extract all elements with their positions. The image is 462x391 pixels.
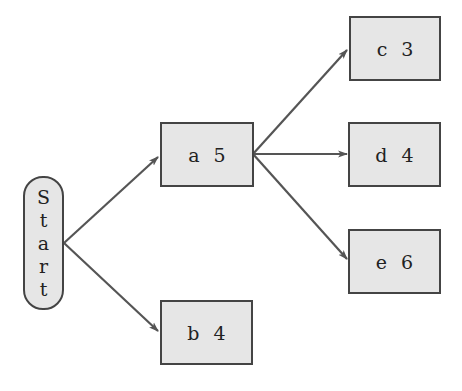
node-c: c 3 bbox=[349, 16, 441, 81]
start-node: S t a r t bbox=[23, 176, 64, 310]
node-value: 4 bbox=[214, 322, 226, 344]
edge-start-to-b bbox=[64, 243, 158, 331]
node-value: 4 bbox=[402, 144, 414, 166]
node-label: a bbox=[188, 144, 199, 166]
edge-a-to-e bbox=[253, 154, 347, 259]
start-letter: r bbox=[39, 255, 48, 278]
node-value: 3 bbox=[401, 38, 413, 60]
node-label: b bbox=[187, 322, 199, 344]
node-e: e 6 bbox=[348, 229, 441, 294]
node-label: d bbox=[375, 144, 387, 166]
edge-start-to-a bbox=[64, 157, 158, 243]
start-letter: S bbox=[37, 186, 50, 209]
node-b: b 4 bbox=[160, 300, 253, 365]
start-letter: a bbox=[38, 232, 49, 255]
start-letter: t bbox=[40, 209, 48, 232]
node-value: 6 bbox=[401, 251, 413, 273]
node-d: d 4 bbox=[348, 122, 441, 187]
start-letter: t bbox=[40, 278, 48, 301]
node-label: c bbox=[377, 38, 388, 60]
node-value: 5 bbox=[214, 144, 226, 166]
node-label: e bbox=[376, 251, 387, 273]
edge-a-to-c bbox=[253, 50, 347, 154]
node-a: a 5 bbox=[160, 122, 254, 187]
